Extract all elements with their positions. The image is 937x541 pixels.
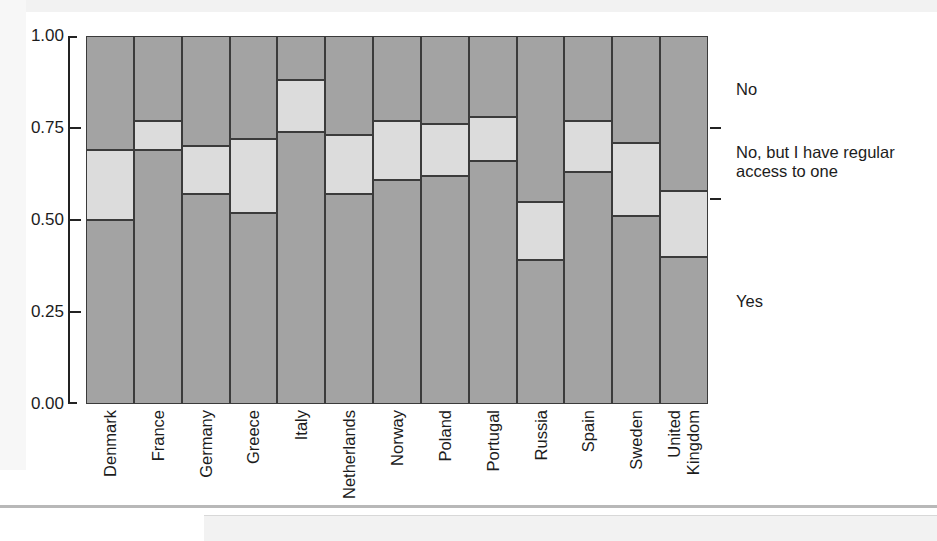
segment-no[interactable] [517,36,565,202]
bar-russia[interactable] [517,36,565,404]
segment-yes[interactable] [564,172,612,404]
segment-no[interactable] [564,36,612,121]
footer-rule [0,505,937,508]
segment-yes[interactable] [325,194,373,404]
y-axis-label-100: 1.00 [8,27,64,44]
x-axis-label-line: Sweden [628,410,645,470]
segment-no[interactable] [469,36,517,117]
segment-yes[interactable] [230,213,278,404]
segment-no-but-i-have-regular-access-to-one[interactable] [373,121,421,180]
segment-no-but-i-have-regular-access-to-one[interactable] [517,202,565,261]
plot-area [86,36,708,404]
segment-yes[interactable] [182,194,230,404]
x-axis-label-line: Netherlands [341,410,358,499]
bar-portugal[interactable] [469,36,517,404]
segment-no[interactable] [421,36,469,124]
segment-yes[interactable] [517,260,565,404]
segment-no-but-i-have-regular-access-to-one[interactable] [325,135,373,194]
segment-no-but-i-have-regular-access-to-one[interactable] [230,139,278,213]
y-axis-label-050: 0.50 [8,211,64,228]
bar-spain[interactable] [564,36,612,404]
segment-no[interactable] [230,36,278,139]
segment-yes[interactable] [277,132,325,404]
segment-no[interactable] [277,36,325,80]
segment-no-but-i-have-regular-access-to-one[interactable] [86,150,134,220]
x-axis-label-france: France [134,408,182,534]
segment-no-but-i-have-regular-access-to-one[interactable] [277,80,325,132]
x-axis-label-line: Norway [389,410,406,466]
x-axis-label-line: Portugal [484,410,501,471]
legend-label-no: No [736,80,757,99]
x-axis-label-line: Kingdom [685,410,702,475]
y-axis-label-075: 0.75 [8,119,64,136]
segment-yes[interactable] [373,180,421,404]
x-axis-label-line: Greece [245,410,262,464]
y-tick-075 [68,127,81,129]
segment-no[interactable] [325,36,373,135]
footer-band [204,515,937,541]
bar-greece[interactable] [230,36,278,404]
segment-no-but-i-have-regular-access-to-one[interactable] [660,191,708,257]
legend-tick-no-regular-access-top [710,127,721,129]
segment-no[interactable] [373,36,421,121]
bar-united-kingdom[interactable] [660,36,708,404]
segment-no-but-i-have-regular-access-to-one[interactable] [564,121,612,173]
y-axis-label-025: 0.25 [8,303,64,320]
legend-tick-no-regular-access-bottom [710,198,721,200]
segment-no[interactable] [612,36,660,143]
bar-norway[interactable] [373,36,421,404]
bar-sweden[interactable] [612,36,660,404]
segment-no-but-i-have-regular-access-to-one[interactable] [134,121,182,150]
segment-no[interactable] [182,36,230,146]
segment-yes[interactable] [612,216,660,404]
page-top-band [0,0,937,12]
segment-yes[interactable] [421,176,469,404]
bar-italy[interactable] [277,36,325,404]
x-axis-label-line: Denmark [102,410,119,477]
segment-yes[interactable] [660,257,708,404]
segment-no[interactable] [660,36,708,191]
x-axis-label-line: Italy [293,410,310,440]
segment-yes[interactable] [134,150,182,404]
bar-netherlands[interactable] [325,36,373,404]
x-axis-label-line: Spain [580,410,597,452]
x-axis-label-line: United [666,410,683,458]
x-axis-label-denmark: Denmark [86,408,134,534]
bar-germany[interactable] [182,36,230,404]
segment-no-but-i-have-regular-access-to-one[interactable] [469,117,517,161]
y-axis-label-000: 0.00 [8,395,64,412]
x-axis-label-line: France [150,410,167,461]
segment-no[interactable] [86,36,134,150]
bar-france[interactable] [134,36,182,404]
x-axis-label-line: Poland [437,410,454,461]
legend-label-yes: Yes [736,292,763,311]
segment-no-but-i-have-regular-access-to-one[interactable] [612,143,660,217]
segment-no-but-i-have-regular-access-to-one[interactable] [182,146,230,194]
segment-no-but-i-have-regular-access-to-one[interactable] [421,124,469,176]
y-axis-labels: 1.00 0.75 0.50 0.25 0.00 [2,0,64,541]
y-axis-cap-bottom [68,402,77,404]
segment-yes[interactable] [86,220,134,404]
x-axis-label-line: Germany [197,410,214,478]
bar-poland[interactable] [421,36,469,404]
y-tick-050 [68,219,81,221]
segment-yes[interactable] [469,161,517,404]
y-axis-cap-top [68,36,77,38]
y-tick-025 [68,311,81,313]
segment-no[interactable] [134,36,182,121]
chart-figure: 1.00 0.75 0.50 0.25 0.00 No No, but I ha… [0,0,937,541]
bar-denmark[interactable] [86,36,134,404]
x-axis-label-line: Russia [532,410,549,460]
legend-label-no-but-regular-access: No, but I have regular access to one [736,143,895,182]
